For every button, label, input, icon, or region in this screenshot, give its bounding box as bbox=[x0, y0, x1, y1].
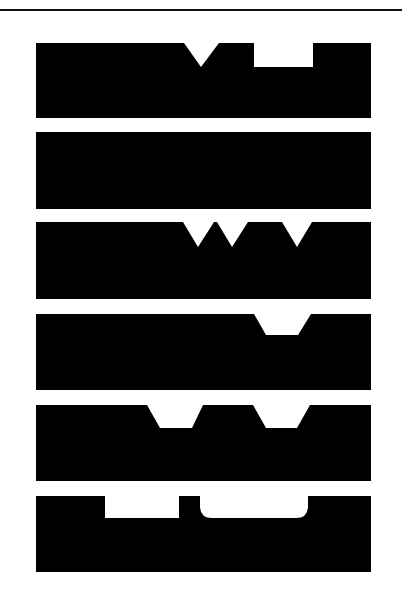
bar-1 bbox=[36, 43, 371, 118]
notched-bars-diagram bbox=[0, 0, 402, 611]
bar-6 bbox=[36, 496, 371, 572]
bar-5 bbox=[36, 405, 371, 481]
bar-2 bbox=[36, 132, 371, 209]
bar-3 bbox=[36, 222, 371, 299]
bar-4 bbox=[36, 314, 371, 390]
